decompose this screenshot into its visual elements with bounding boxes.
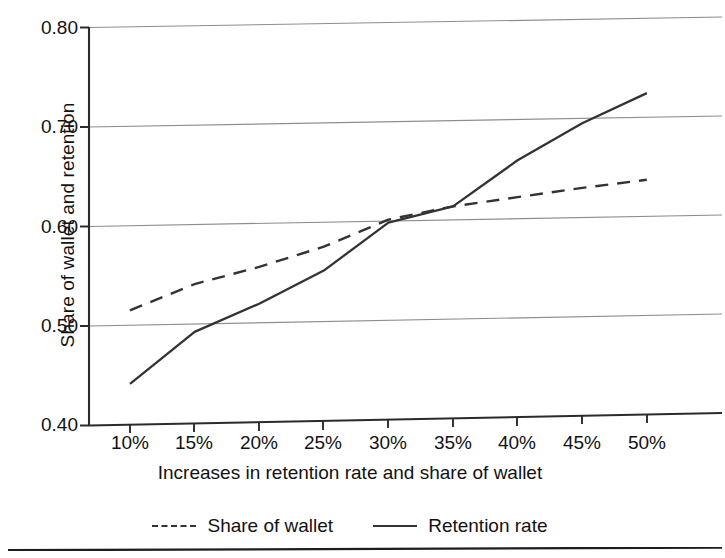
x-tick-label: 20% — [229, 432, 289, 454]
legend-label: Retention rate — [428, 515, 547, 537]
x-axis-title: Increases in retention rate and share of… — [0, 462, 700, 484]
gridline-0.70 — [89, 116, 722, 127]
legend-item-share-of-wallet: Share of wallet — [152, 515, 333, 537]
x-axis-line — [89, 413, 722, 426]
x-axis-tick-labels: 10% 15% 20% 25% 30% 35% 40% 45% 50% — [0, 432, 725, 460]
x-tick-label: 15% — [164, 432, 224, 454]
x-tick-label: 30% — [358, 432, 418, 454]
x-tick-label: 35% — [423, 432, 483, 454]
page-bottom-rule — [0, 547, 725, 551]
y-axis-ticks — [80, 28, 89, 426]
x-tick-label: 40% — [487, 432, 547, 454]
x-tick-label: 50% — [617, 432, 677, 454]
dashed-line-icon — [152, 525, 196, 527]
chart-figure: Share of wallet and retention 0.80 0.70 … — [0, 0, 725, 558]
gridline-0.50 — [89, 314, 722, 326]
gridline-0.80 — [89, 17, 722, 28]
gridlines — [89, 17, 722, 326]
chart-legend: Share of wallet Retention rate — [0, 515, 700, 537]
x-tick-label: 45% — [552, 432, 612, 454]
series-line-retention-rate — [130, 93, 647, 384]
solid-line-icon — [373, 525, 417, 527]
series-line-share-of-wallet — [130, 180, 647, 311]
legend-label: Share of wallet — [207, 515, 333, 537]
x-tick-label: 10% — [100, 432, 160, 454]
legend-item-retention-rate: Retention rate — [373, 515, 547, 537]
x-tick-label: 25% — [293, 432, 353, 454]
plot-area — [0, 0, 725, 470]
